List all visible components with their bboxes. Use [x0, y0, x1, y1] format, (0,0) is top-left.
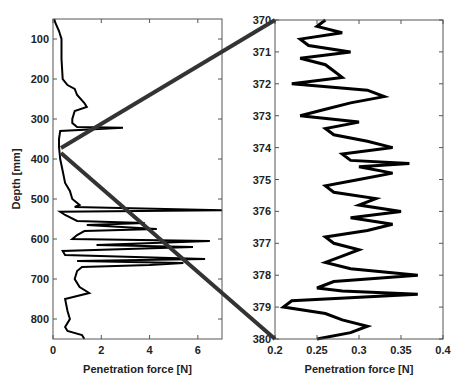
x-tick-label: 4 — [147, 344, 154, 356]
y-tick-label: 500 — [31, 193, 49, 205]
y-tick-label: 200 — [31, 73, 49, 85]
x-tick-label: 0.25 — [306, 344, 327, 356]
data-trace — [283, 20, 417, 339]
x-axis-label: Penetration force [N] — [83, 363, 192, 375]
x-tick-label: 2 — [98, 344, 104, 356]
y-tick-label: 371 — [253, 46, 271, 58]
y-tick-label: 373 — [253, 110, 271, 122]
x-tick-label: 0.3 — [351, 344, 366, 356]
x-tick-label: 0.2 — [267, 344, 282, 356]
y-tick-label: 375 — [253, 174, 271, 186]
y-tick-label: 374 — [253, 142, 272, 154]
y-tick-label: 300 — [31, 113, 49, 125]
y-tick-label: 376 — [253, 205, 271, 217]
x-tick-label: 0.4 — [435, 344, 451, 356]
x-tick-label: 0.35 — [390, 344, 411, 356]
y-tick-label: 379 — [253, 301, 271, 313]
y-tick-label: 372 — [253, 78, 271, 90]
y-tick-label: 100 — [31, 33, 49, 45]
y-tick-label: 377 — [253, 237, 271, 249]
chart-figure: 0246100200300400500600700800Penetration … — [0, 0, 463, 386]
y-tick-label: 700 — [31, 273, 49, 285]
y-tick-label: 800 — [31, 313, 49, 325]
x-axis-label: Penetration force [N] — [305, 363, 414, 375]
y-tick-label: 378 — [253, 269, 271, 281]
right-plot-zoom-profile: 0.20.250.30.350.437037137237337437537637… — [253, 14, 452, 375]
y-tick-label: 600 — [31, 233, 49, 245]
x-tick-label: 6 — [195, 344, 201, 356]
connector-line-bottom — [61, 153, 275, 339]
y-axis-label: Depth [mm] — [10, 148, 22, 209]
connector-line-top — [61, 20, 275, 148]
zoom-connector-lines — [61, 20, 275, 339]
y-tick-label: 400 — [31, 153, 49, 165]
x-tick-label: 0 — [50, 344, 56, 356]
